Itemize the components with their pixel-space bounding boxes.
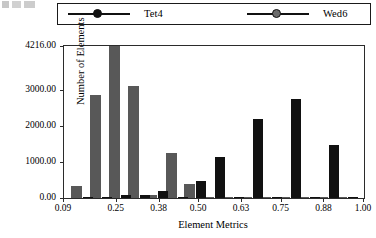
- x-tick-mark: [159, 198, 160, 202]
- y-tick-label: 2000.00: [0, 121, 56, 131]
- y-tick-label: 3000.00: [0, 85, 56, 95]
- x-tick-mark: [198, 198, 199, 202]
- bar-tet4-4: [158, 191, 168, 198]
- legend-label: Wed6: [323, 9, 348, 20]
- y-tick-mark: [60, 126, 64, 127]
- y-tick-label: 0.00: [0, 193, 56, 203]
- bar-wed6-1: [90, 95, 101, 198]
- y-tick-mark: [60, 90, 64, 91]
- x-tick-mark: [323, 198, 324, 202]
- bar-tet4-8: [234, 197, 244, 198]
- legend-entry-wed6: Wed6: [247, 4, 348, 24]
- plot-area: 0.001000.002000.003000.004216.00 Number …: [63, 45, 365, 199]
- bar-tet4-1: [102, 197, 112, 198]
- x-tick-mark: [281, 198, 282, 202]
- bar-tet4-14: [348, 197, 358, 198]
- bar-tet4-5: [178, 197, 188, 198]
- bar-tet4-11: [291, 99, 301, 198]
- x-axis-title: Element Metrics: [63, 220, 363, 231]
- bar-tet4-6: [196, 181, 206, 198]
- chart-legend: Tet4Wed6: [57, 3, 371, 25]
- chart-figure: Tet4Wed6 0.001000.002000.003000.004216.0…: [0, 0, 376, 238]
- legend-label: Tet4: [144, 9, 163, 20]
- x-tick-mark: [241, 198, 242, 202]
- legend-marker-wed6-icon: [247, 8, 309, 20]
- scan-artifact: [2, 1, 42, 8]
- x-axis: Element Metrics 0.090.250.380.500.630.75…: [63, 198, 363, 238]
- y-axis-title: Number of Elements: [76, 0, 87, 131]
- x-tick-label: 0.09: [38, 204, 88, 214]
- y-tick-label: 1000.00: [0, 157, 56, 167]
- y-tick-mark: [60, 162, 64, 163]
- bar-tet4-10: [272, 197, 282, 198]
- x-tick-mark: [116, 198, 117, 202]
- x-tick-label: 1.00: [338, 204, 376, 214]
- x-tick-mark: [63, 198, 64, 202]
- bar-tet4-13: [329, 145, 339, 198]
- y-tick-label: 4216.00: [0, 41, 56, 51]
- bar-wed6-2: [109, 46, 120, 198]
- y-tick-mark: [60, 46, 64, 47]
- bar-tet4-7: [215, 157, 225, 198]
- bar-tet4-2: [121, 195, 131, 198]
- x-tick-mark: [363, 198, 364, 202]
- bar-tet4-0: [83, 197, 93, 198]
- bar-wed6-3: [128, 86, 139, 198]
- bar-tet4-9: [253, 119, 263, 198]
- bar-tet4-3: [140, 195, 150, 198]
- bar-tet4-12: [310, 197, 320, 198]
- bar-wed6-0: [71, 186, 82, 198]
- bars-container: [64, 46, 364, 198]
